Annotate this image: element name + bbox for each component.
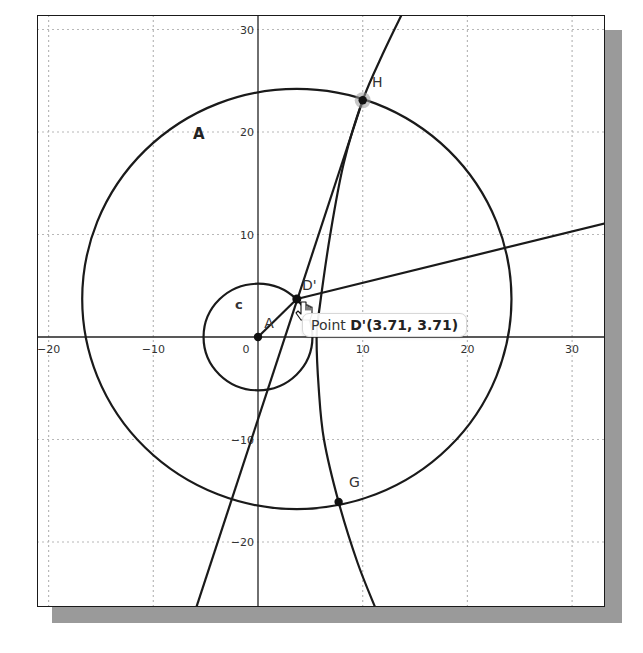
point-tooltip: Point D'(3.71, 3.71) — [302, 313, 467, 337]
y-tick-label: 20 — [240, 126, 254, 139]
line-through-d-h[interactable] — [196, 100, 362, 607]
construction-objects[interactable] — [82, 15, 605, 607]
y-tick-label: 30 — [240, 24, 254, 37]
y-tick-label: 10 — [240, 229, 254, 242]
geometry-view: −20−100102030302010−10−20 AHGD'cA Point … — [0, 0, 643, 653]
grid-lines — [37, 15, 605, 607]
x-tick-label: 20 — [460, 343, 474, 356]
point-g[interactable] — [334, 498, 342, 506]
x-tick-label: −10 — [142, 343, 165, 356]
coordinate-axes — [37, 15, 605, 607]
construction-points[interactable] — [254, 92, 371, 506]
object-labels: AHGD'cA — [193, 74, 383, 490]
circle-big-label: A — [193, 125, 205, 143]
x-tick-label: 10 — [356, 343, 370, 356]
y-tick-label: −20 — [231, 536, 254, 549]
point-g-label: G — [349, 474, 360, 490]
x-tick-label: 30 — [565, 343, 579, 356]
point-d-prime[interactable] — [292, 294, 301, 303]
point-h-label: H — [372, 74, 383, 90]
tooltip-prefix: Point — [311, 317, 350, 333]
tooltip-value: D'(3.71, 3.71) — [350, 317, 458, 333]
point-h[interactable] — [359, 96, 367, 104]
x-tick-label: 0 — [243, 343, 250, 356]
point-d-prime-label: D' — [302, 277, 317, 293]
point-a-label: A — [264, 315, 274, 331]
point-a[interactable] — [254, 333, 262, 341]
x-tick-label: −20 — [37, 343, 60, 356]
circle-c-label: c — [235, 297, 243, 312]
